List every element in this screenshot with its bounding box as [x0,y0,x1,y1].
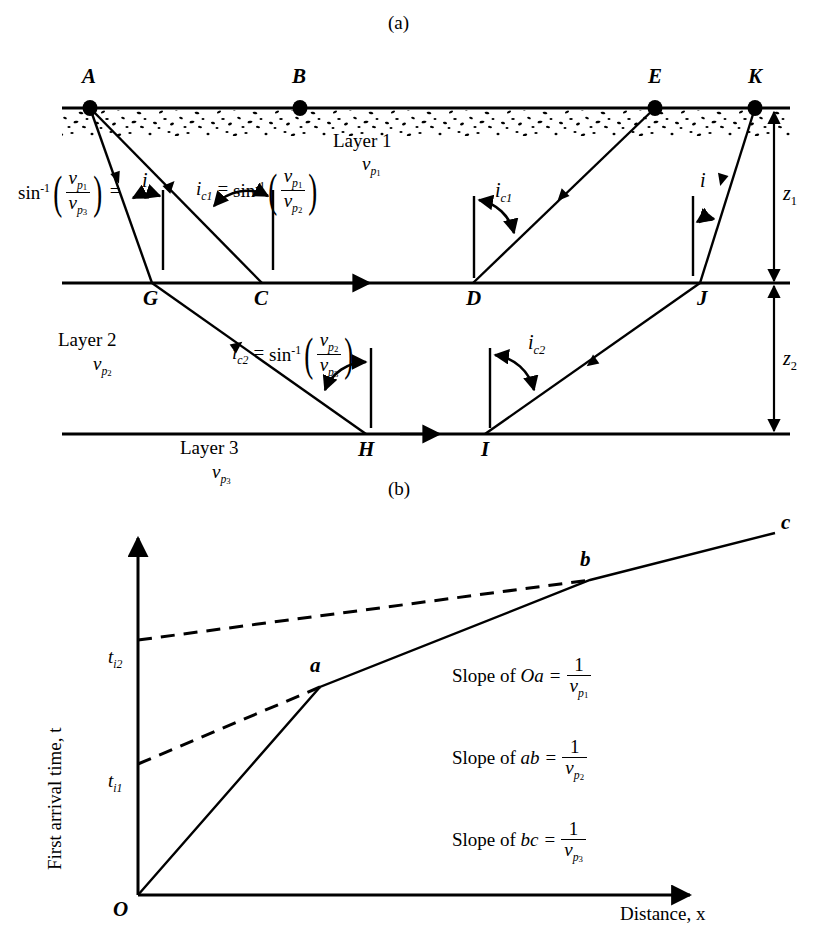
fraction-denominator: vp1 [567,675,592,700]
right-paren: ) [309,168,318,215]
point-label-H: H [358,439,374,460]
angle-arc-i-left [133,194,160,198]
ic2-lhs: ic2 [232,342,248,363]
breakpoint-label-a: a [310,655,321,676]
ray-direction-arrowhead [714,173,728,188]
equals-sign: = [217,178,228,199]
point-label-E: E [648,66,662,87]
point-label-D: D [466,288,481,309]
slope-equation-bc: Slope of bc= 1 vp3 [452,819,586,864]
velocity-ratio-fraction: vp1 vp2 [281,166,306,216]
equation-ic1: ic1=sin-1( vp1 vp2 ) [196,166,321,216]
velocity-ratio-fraction: vp2 vp3 [317,330,342,380]
depth-base: z [783,347,791,369]
angle-arc-ic2-right [495,355,534,390]
fraction-denominator: vp3 [317,354,342,379]
slope-prefix: Slope of [452,747,521,768]
depth-base: z [783,182,791,204]
right-paren: ) [345,332,354,379]
layer-3-label: Layer 3 [180,438,239,457]
layer-1-label: Layer 1 [333,131,392,150]
equals-sign: = [110,180,121,201]
point-marker-K [748,100,763,116]
reciprocal-velocity-fraction: 1 vp2 [562,737,587,782]
slope-segment: Oa [521,665,544,686]
velocity-index: 3 [226,476,230,486]
layer-2-velocity: vp2 [93,354,112,378]
y-axis-label-text: First arrival time, t [44,728,65,870]
panel-b-label: (b) [388,478,410,500]
y-axis-label: First arrival time, t [44,728,66,870]
layer-1-velocity: vp1 [362,154,381,178]
left-paren: ( [268,168,277,215]
fraction-numerator: 1 [567,655,592,675]
reciprocal-velocity-fraction: 1 vp3 [561,819,586,864]
point-label-I: I [481,439,489,460]
soil-texture-band [62,110,790,136]
inverse-exponent: -1 [40,182,50,195]
equals-sign: = [550,665,561,686]
angle-label-ic2-right: ic2 [528,332,545,356]
slope-prefix: Slope of [452,665,521,686]
angle-label-ic1-right: ic1 [495,180,512,204]
dashed-extension-bc [138,580,590,640]
intercept-index: i2 [113,658,122,671]
breakpoint-label-b: b [580,549,591,570]
layer-3-velocity: vp3 [212,462,231,486]
depth-label-z1: z1 [783,183,797,207]
breakpoint-label-c: c [781,512,790,533]
point-label-K: K [748,66,762,87]
arcsin-symbol: sin-1 [269,345,301,364]
angle-index: c1 [501,191,513,205]
fraction-numerator: 1 [562,737,587,757]
fraction-numerator: 1 [561,819,586,839]
x-axis-label-text: Distance, x [620,903,705,924]
point-label-G: G [143,288,158,309]
equals-sign: = [253,342,264,363]
slope-segment: bc [521,829,539,850]
dashed-extension-ab [138,687,320,764]
intercept-label-ti2: ti2 [108,647,122,671]
inverse-exponent: -1 [291,344,301,357]
ic1-lhs: ic1 [196,178,212,199]
slope-prefix: Slope of [452,829,521,850]
depth-label-z2: z2 [783,348,797,372]
panel-a-diagram [62,100,790,434]
sin-function: sin [233,181,255,202]
reciprocal-velocity-fraction: 1 vp1 [567,655,592,700]
point-marker-A [83,100,98,116]
intercept-label-ti1: ti1 [108,771,122,795]
origin-label: O [113,899,128,920]
angle-label-i-right: i [700,170,706,190]
right-paren: ) [93,170,102,217]
fraction-denominator: vp3 [561,839,586,864]
intercept-index: i1 [113,782,122,795]
fraction-numerator: vp1 [66,168,91,192]
fraction-denominator: vp2 [281,190,306,215]
inverse-exponent: -1 [255,180,265,193]
point-label-A: A [82,66,96,87]
ray-direction-arrowhead [163,178,179,194]
sin-function: sin [269,345,291,366]
panel-a-label: (a) [388,12,409,34]
angle-label-i-left: i [142,170,148,190]
angle-index: c2 [534,343,546,357]
fraction-denominator: vp3 [66,192,91,217]
left-paren: ( [304,332,313,379]
slope-equation-ab: Slope of ab= 1 vp2 [452,737,587,782]
point-marker-B [293,100,308,116]
angle-arc-i-right [697,218,714,222]
depth-index: 2 [791,359,797,373]
arcsin-symbol: sin-1 [18,183,50,202]
equation-i: sin-1( vp1 vp3 )= [18,168,120,218]
slope-segment: ab [521,747,540,768]
figure-canvas [0,0,820,952]
x-axis-label: Distance, x [620,903,705,925]
equals-sign: = [545,829,556,850]
fraction-denominator: vp2 [562,757,587,782]
point-label-B: B [292,66,306,87]
velocity-index: 2 [107,368,111,378]
equals-sign: = [546,747,557,768]
fraction-numerator: vp1 [281,166,306,190]
point-label-J: J [697,288,708,309]
